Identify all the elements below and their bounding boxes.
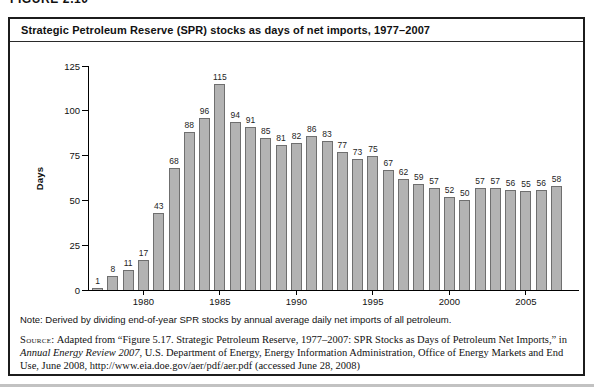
bar-1987 [245,127,256,290]
x-axis-tick [525,290,526,295]
bar-value-label: 68 [163,156,185,166]
y-axis-tick [82,110,89,111]
x-axis-tick-label: 2005 [508,296,544,307]
y-axis-tick [82,245,89,246]
bar-value-label: 17 [132,248,154,258]
chart-title: Strategic Petroleum Reserve (SPR) stocks… [10,19,583,36]
bar-1979 [123,270,134,290]
bar-value-label: 91 [240,115,262,125]
bar-2005 [520,191,531,290]
bar-value-label: 43 [148,201,170,211]
bar-1977 [92,288,103,290]
bar-1994 [352,159,363,290]
bar-1991 [306,136,317,290]
source-label: Source: [20,334,55,345]
figure-number-text: FIGURE 2.10 [10,0,89,6]
bar-1981 [153,213,164,290]
y-axis-tick [82,290,89,291]
bar-1980 [138,260,149,290]
x-axis-tick [143,290,144,295]
bar-1997 [398,179,409,290]
bar-value-label: 50 [454,188,476,198]
bar-1998 [413,184,424,290]
scanned-figure-page: FIGURE 2.10 Strategic Petroleum Reserve … [0,0,594,390]
bar-1993 [337,152,348,290]
y-axis-tick [82,155,89,156]
y-axis-tick [82,66,89,67]
source-publication-title: Annual Energy Review 2007 [20,347,139,358]
x-axis-tick-label: 1995 [355,296,391,307]
bar-1989 [276,145,287,290]
bar-value-label: 58 [546,174,568,184]
y-axis-tick [82,200,89,201]
bar-1988 [260,138,271,290]
bar-2004 [505,190,516,290]
plot-area: 0255075100125181117436888961159491858182… [88,66,579,291]
x-axis-tick [296,290,297,295]
y-axis-tick-label: 125 [49,61,80,72]
bar-value-label: 11 [117,258,139,268]
x-axis-tick-label: 1985 [202,296,238,307]
x-axis-tick [219,290,220,295]
bar-1982 [169,168,180,290]
bar-2007 [551,186,562,290]
bar-value-label: 1 [87,276,109,286]
y-axis-tick-label: 100 [49,105,80,116]
x-axis-tick [449,290,450,295]
bar-1978 [107,276,118,290]
y-axis-tick-label: 50 [49,195,80,206]
note-text: Note: Derived by dividing end-of-year SP… [20,314,573,326]
bar-2002 [475,188,486,290]
y-axis-tick-label: 25 [49,240,80,251]
y-axis-title: Days [34,66,46,290]
x-axis-tick-label: 2000 [431,296,467,307]
bar-1999 [429,188,440,290]
x-axis-tick-label: 1990 [278,296,314,307]
page-bottom-shadow [0,384,594,387]
y-axis-title-text: Days [35,166,46,190]
bar-1992 [322,141,333,290]
y-axis-tick-label: 0 [49,285,80,296]
bar-value-label: 83 [316,129,338,139]
bar-2001 [459,200,470,290]
figure-number-label-cropped: FIGURE 2.10 [10,0,150,6]
x-axis-tick [372,290,373,295]
source-text: Source: Adapted from “Figure 5.17. Strat… [20,333,568,372]
bar-1990 [291,143,302,290]
bar-1984 [199,118,210,290]
bar-2003 [490,188,501,290]
bar-1986 [230,122,241,290]
bar-1983 [184,132,195,290]
bar-chart: Days 02550751001251811174368889611594918… [10,42,583,310]
bar-value-label: 96 [194,106,216,116]
bar-value-label: 115 [209,72,231,82]
figure-box: Strategic Petroleum Reserve (SPR) stocks… [8,17,585,376]
bar-value-label: 75 [362,144,384,154]
x-axis-tick-label: 1980 [125,296,161,307]
y-axis-tick-label: 75 [49,150,80,161]
bar-1996 [383,170,394,290]
source-segment-1: Adapted from “Figure 5.17. Strategic Pet… [55,334,567,345]
bar-2000 [444,197,455,290]
bar-2006 [536,190,547,290]
bar-1995 [367,156,378,290]
bar-value-label: 88 [178,120,200,130]
